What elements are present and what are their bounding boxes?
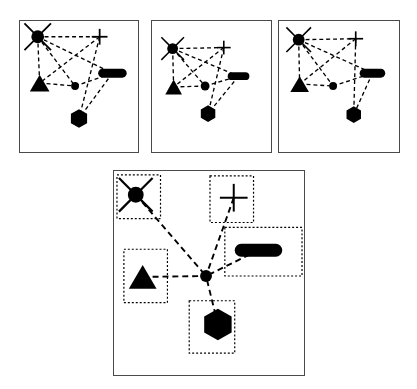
graph-panel-2 xyxy=(151,20,272,153)
graph-edge xyxy=(299,40,333,86)
graph-edge xyxy=(136,195,206,276)
graph-panel-4 xyxy=(113,170,305,376)
hexagon-icon xyxy=(204,309,231,341)
hexagon-icon xyxy=(71,109,87,128)
pill-icon xyxy=(98,69,127,78)
plus-icon xyxy=(348,31,363,46)
graph-edge xyxy=(143,276,206,277)
dot-icon xyxy=(201,82,210,91)
pill-icon xyxy=(235,244,283,257)
graph-edge xyxy=(174,48,224,87)
graph-edge xyxy=(299,39,356,40)
graph-edge xyxy=(40,37,100,83)
dot-icon xyxy=(200,270,212,282)
node-layer xyxy=(286,27,385,123)
graph-panel-3 xyxy=(278,20,400,153)
node-layer xyxy=(119,178,282,340)
graph-edge xyxy=(300,39,356,84)
panel-graph-4 xyxy=(114,171,304,375)
node-bounding-box-plus xyxy=(210,176,254,223)
graph-edge xyxy=(79,37,100,119)
edge-layer xyxy=(136,195,259,325)
hexagon-icon xyxy=(201,105,215,122)
triangle-icon xyxy=(129,265,157,289)
pill-icon xyxy=(360,69,386,78)
triangle-icon xyxy=(30,75,50,92)
graph-edge xyxy=(173,48,224,49)
graph-panel-1 xyxy=(19,20,139,153)
plus-icon xyxy=(92,29,108,45)
graph-edge xyxy=(38,37,75,86)
dot-icon xyxy=(71,82,79,90)
panel-graph-3 xyxy=(279,21,399,152)
starburst-icon xyxy=(119,178,153,212)
graph-edge xyxy=(299,40,373,73)
pill-icon xyxy=(228,72,250,80)
plus-icon xyxy=(217,41,231,55)
graph-edge xyxy=(354,39,356,115)
panel-graph-1 xyxy=(20,21,138,152)
dot-icon xyxy=(329,82,337,90)
panel-graph-2 xyxy=(152,21,271,152)
hexagon-icon xyxy=(347,106,361,123)
node-layer xyxy=(161,37,249,122)
node-layer xyxy=(24,23,126,127)
figure-canvas xyxy=(0,0,417,389)
plus-icon xyxy=(220,184,248,212)
graph-edge xyxy=(174,86,205,87)
graph-edge xyxy=(79,73,112,118)
